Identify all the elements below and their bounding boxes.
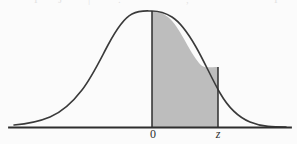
normal-curve-plot <box>0 0 297 144</box>
axis-label-z: z <box>211 128 225 140</box>
normal-distribution-figure: ' I J | . ' , ' ' I 0 z <box>0 0 297 144</box>
axis-label-zero: 0 <box>146 128 160 140</box>
normal-curve-line <box>14 11 286 127</box>
